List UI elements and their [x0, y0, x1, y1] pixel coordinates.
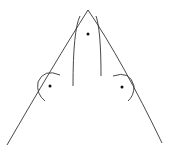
geometry-diagram	[0, 0, 175, 153]
left-point	[49, 85, 52, 88]
diagram-svg	[0, 0, 175, 153]
right-point	[121, 86, 124, 89]
apex-interior-point	[87, 33, 90, 36]
background	[0, 0, 175, 153]
